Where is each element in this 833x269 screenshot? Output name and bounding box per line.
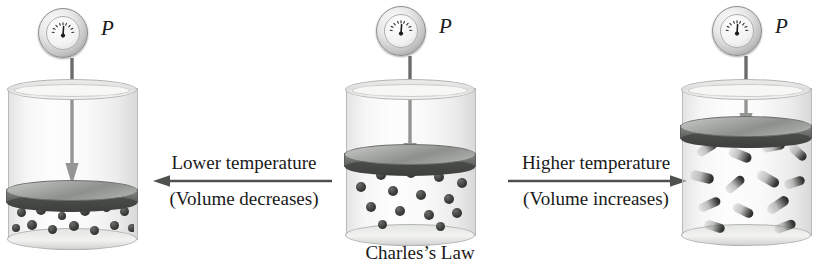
transition-subtitle: (Volume increases): [504, 188, 688, 210]
gas-particle: [703, 219, 726, 234]
charles-law-figure: P: [0, 0, 833, 269]
gas-particle: [452, 208, 462, 218]
transition-heating: Higher temperature (Volume increases): [504, 152, 688, 210]
pressure-symbol-label: P: [775, 14, 788, 39]
gas-particle: [755, 169, 781, 190]
gas-cylinder: [8, 88, 136, 240]
arrow-right-icon: [504, 174, 688, 188]
figure-caption: Charles’s Law: [336, 242, 504, 264]
piston-top: [344, 144, 476, 165]
gas-particle: [457, 178, 467, 188]
piston: [6, 180, 138, 212]
transition-cooling: Lower temperature (Volume decreases): [152, 152, 336, 210]
transition-subtitle: (Volume decreases): [152, 188, 336, 210]
pressure-symbol-label: P: [101, 16, 114, 41]
gas-particle: [378, 220, 387, 229]
gas-particle: [388, 186, 398, 196]
gas-particle: [366, 202, 376, 212]
pressure-gauge: [712, 6, 762, 56]
gas-particle: [424, 210, 434, 220]
gas-particle: [395, 206, 405, 216]
cylinder-rim-inner: [14, 84, 130, 97]
cylinder-rim-inner: [352, 84, 468, 97]
gas-particle: [416, 190, 426, 200]
gas-region: [684, 136, 808, 238]
gas-particle: [58, 212, 66, 220]
gas-cylinder: [346, 88, 474, 236]
cylinder-panel-reference-temperature: P: [336, 0, 504, 269]
gas-particle: [90, 226, 99, 235]
gas-particle: [773, 219, 797, 235]
gas-particle: [689, 169, 715, 185]
gas-particle: [48, 225, 57, 234]
gauge-face: [720, 14, 754, 48]
cylinder-rim-inner: [688, 84, 804, 97]
gas-particle: [783, 175, 806, 190]
pressure-gauge: [376, 6, 426, 56]
cylinder-panel-high-temperature: P: [672, 0, 833, 269]
gas-particle: [724, 174, 747, 195]
arrow-left-icon: [152, 174, 336, 188]
piston: [344, 144, 476, 176]
gas-particle: [128, 224, 134, 232]
pressure-gauge: [38, 8, 88, 58]
gas-particle: [765, 194, 790, 216]
gauge-face: [384, 14, 418, 48]
gas-particle: [444, 194, 454, 204]
gas-particle: [697, 196, 722, 214]
piston-top: [680, 116, 812, 137]
pressure-symbol-label: P: [439, 14, 452, 39]
piston-top: [6, 180, 138, 201]
gas-particle: [12, 224, 20, 232]
gas-particle: [27, 220, 37, 230]
gas-particle: [356, 182, 366, 192]
cylinder-panel-low-temperature: P: [0, 0, 160, 269]
piston: [680, 116, 812, 148]
gas-particle: [731, 202, 755, 220]
transition-title: Higher temperature: [504, 152, 688, 174]
transition-title: Lower temperature: [152, 152, 336, 174]
gas-particle: [110, 221, 119, 230]
gas-particle: [436, 222, 445, 231]
gas-cylinder: [682, 88, 810, 236]
gauge-face: [46, 16, 80, 50]
gas-particle: [69, 221, 79, 231]
gas-particle: [727, 146, 753, 164]
